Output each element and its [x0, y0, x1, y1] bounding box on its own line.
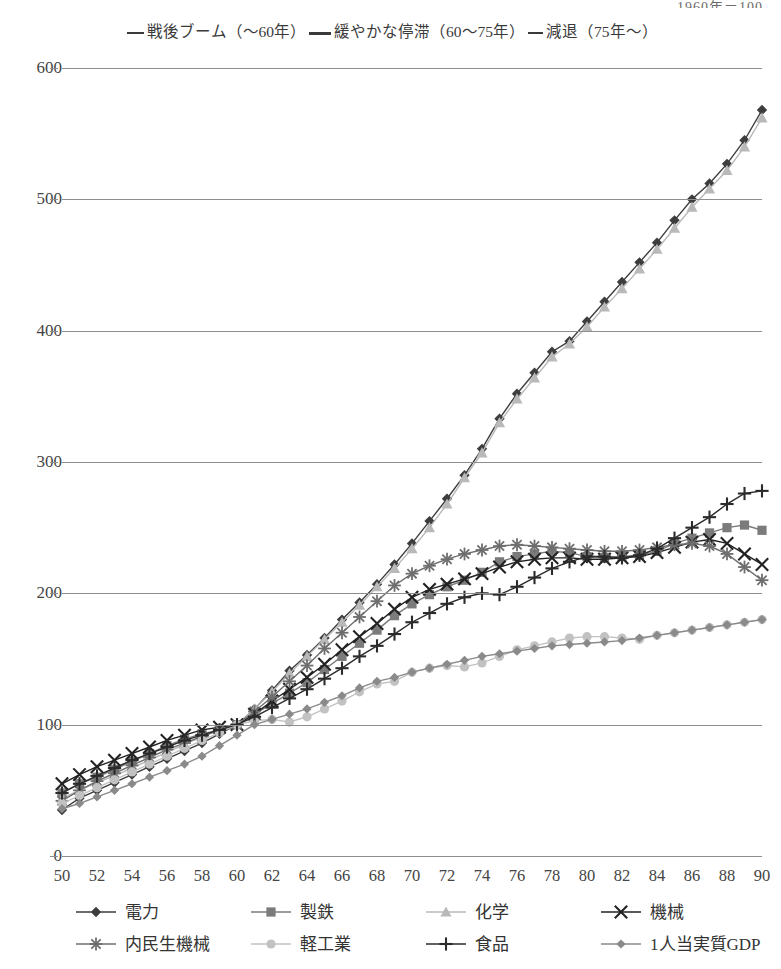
- data-point-plus: [300, 683, 313, 696]
- legend-label: 化学: [475, 904, 509, 921]
- x-axis-tick-label: 56: [152, 866, 182, 886]
- data-point-asterisk: [283, 675, 296, 688]
- triangle-filled-icon: [424, 903, 468, 921]
- plus-icon: [424, 935, 468, 953]
- legend-label: 製鉄: [300, 904, 334, 921]
- data-point-plus: [580, 550, 593, 563]
- data-point-plus: [528, 571, 541, 584]
- data-point-diamond-small: [477, 652, 486, 661]
- series-0: [57, 105, 767, 815]
- data-point-circle: [266, 939, 275, 948]
- line-segment-icon: [127, 32, 144, 34]
- x-axis-tick-label: 54: [117, 866, 147, 886]
- data-point-square: [722, 523, 731, 532]
- data-point-asterisk: [721, 548, 734, 561]
- data-point-asterisk: [423, 559, 436, 572]
- data-point-plus: [335, 662, 348, 675]
- diamond-small-icon: [599, 935, 643, 953]
- data-point-diamond-small: [582, 639, 591, 648]
- data-point-asterisk: [511, 538, 524, 551]
- series-line: [62, 110, 762, 810]
- data-point-asterisk: [493, 540, 506, 553]
- data-point-asterisk: [353, 611, 366, 624]
- y-axis: 0100200300400500600: [0, 68, 62, 858]
- data-point-square: [740, 520, 749, 529]
- x-axis-tick-label: 86: [677, 866, 707, 886]
- data-point-diamond-small: [616, 939, 625, 948]
- data-point-circle: [75, 791, 84, 800]
- data-point-diamond-small: [162, 766, 171, 775]
- x-axis-tick-label: 50: [47, 866, 77, 886]
- phase-legend-label-2: 緩やかな停滞（60～75年）: [334, 23, 525, 40]
- data-point-asterisk: [371, 595, 384, 608]
- gridline: [62, 593, 762, 594]
- series-2: [56, 112, 767, 802]
- legend-item-6[interactable]: 食品: [424, 935, 599, 953]
- y-axis-tick: [50, 462, 58, 463]
- data-point-asterisk: [563, 542, 576, 555]
- data-point-plus: [318, 672, 331, 685]
- data-point-circle: [127, 767, 136, 776]
- phase-legend: 戦後ブーム（～60年）緩やかな停滞（60～75年）減退（75年～）: [0, 19, 781, 41]
- x-axis-tick-label: 62: [257, 866, 287, 886]
- data-point-plus: [353, 650, 366, 663]
- circle-filled-icon: [249, 935, 293, 953]
- data-point-plus: [440, 597, 453, 610]
- x-axis-tick-label: 70: [397, 866, 427, 886]
- data-point-asterisk: [318, 642, 331, 655]
- x-axis-tick-label: 72: [432, 866, 462, 886]
- legend-item-3[interactable]: 機械: [599, 903, 781, 921]
- legend-item-4[interactable]: 内民生機械: [74, 935, 249, 953]
- data-point-asterisk: [476, 544, 489, 557]
- data-point-plus: [738, 487, 751, 500]
- data-point-asterisk: [301, 659, 314, 672]
- y-axis-tick: [50, 856, 58, 857]
- legend-item-5[interactable]: 軽工業: [249, 935, 424, 953]
- data-point-diamond-small: [145, 773, 154, 782]
- data-point-asterisk: [756, 574, 769, 587]
- data-point-asterisk: [546, 541, 559, 554]
- data-point-plus: [510, 580, 523, 593]
- phase-legend-item-3: 減退（75年～）: [525, 19, 658, 41]
- x-axis-tick-label: 80: [572, 866, 602, 886]
- legend-label: 食品: [475, 936, 509, 953]
- data-point-plus: [685, 521, 698, 534]
- phase-legend-label-3: 減退（75年～）: [546, 23, 658, 40]
- x-axis-baseline: [62, 856, 762, 857]
- data-point-diamond-small: [232, 731, 241, 740]
- data-point-diamond-small: [285, 710, 294, 719]
- x-axis-tick-label: 52: [82, 866, 112, 886]
- legend-item-1[interactable]: 製鉄: [249, 903, 424, 921]
- legend-label: 1人当実質GDP: [650, 936, 761, 953]
- data-point-circle: [92, 783, 101, 792]
- x-axis-tick-label: 82: [607, 866, 637, 886]
- line-segment-icon: [528, 32, 543, 34]
- legend-item-0[interactable]: 電力: [74, 903, 249, 921]
- data-point-plus: [370, 639, 383, 652]
- gridline: [62, 199, 762, 200]
- data-point-asterisk: [686, 537, 699, 550]
- x-axis-tick-label: 60: [222, 866, 252, 886]
- series-5: [57, 615, 766, 808]
- data-point-asterisk: [738, 561, 751, 574]
- data-point-diamond-small: [92, 792, 101, 801]
- asterisk-icon: [74, 935, 118, 953]
- chart-legend: 電力製鉄化学機械内民生機械軽工業食品1人当実質GDP: [74, 896, 774, 960]
- data-point-asterisk: [441, 553, 454, 566]
- y-axis-tick: [50, 68, 58, 69]
- x-axis-tick-label: 74: [467, 866, 497, 886]
- series-7: [57, 615, 766, 813]
- legend-item-2[interactable]: 化学: [424, 903, 599, 921]
- data-point-plus: [493, 588, 506, 601]
- x-axis-tick-label: 90: [747, 866, 777, 886]
- x-axis-tick-label: 58: [187, 866, 217, 886]
- data-point-circle: [145, 759, 154, 768]
- x-axis-labels: 5052545658606264666870727476788082848688…: [62, 866, 762, 892]
- data-point-triangle: [459, 472, 470, 482]
- chart-root: 1960年＝100 戦後ブーム（～60年）緩やかな停滞（60～75年）減退（75…: [0, 0, 781, 969]
- legend-item-7[interactable]: 1人当実質GDP: [599, 935, 781, 953]
- data-point-square: [757, 526, 766, 535]
- data-point-diamond-small: [127, 779, 136, 788]
- data-point-diamond-small: [215, 741, 224, 750]
- data-point-circle: [302, 712, 311, 721]
